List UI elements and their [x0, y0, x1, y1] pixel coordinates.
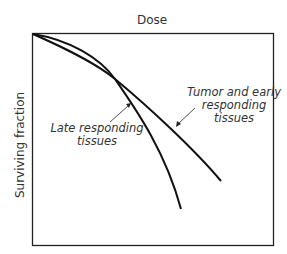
survival-curve-diagram: Dose Surviving fraction Tumor and early … — [0, 0, 287, 254]
tumor-label-line3: tissues — [214, 111, 254, 125]
late-leader-arrow — [110, 106, 128, 122]
y-axis-label: Surviving fraction — [13, 92, 27, 198]
tumor-early-curve — [33, 34, 221, 181]
tumor-label-line1: Tumor and early — [187, 85, 281, 99]
tumor-leader-arrow — [178, 108, 195, 124]
late-label-line2: tissues — [77, 134, 117, 148]
late-label-line1: Late responding — [50, 121, 143, 135]
tumor-label-line2: responding — [202, 98, 267, 112]
x-axis-label: Dose — [137, 13, 167, 27]
